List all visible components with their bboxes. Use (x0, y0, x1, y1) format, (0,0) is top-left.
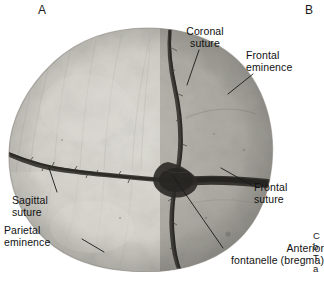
label-parietal-eminence: Parietal eminence (4, 225, 86, 248)
label-coronal-suture: Coronal suture (168, 26, 242, 49)
panel-letter-b: B (305, 3, 313, 17)
panel-letter-a: A (38, 3, 46, 17)
label-sagittal-suture: Sagittal suture (12, 195, 82, 218)
label-frontal-eminence: Frontal eminence (246, 50, 324, 73)
caption-fragment-line2: Ta (313, 252, 324, 274)
figure-panel: A B (0, 0, 324, 287)
label-frontal-suture: Frontal suture (254, 182, 324, 205)
caption-fragment-line1: Cb (313, 230, 324, 252)
label-anterior-fontanelle: Anterior fontanelle (bregma) (186, 243, 324, 266)
